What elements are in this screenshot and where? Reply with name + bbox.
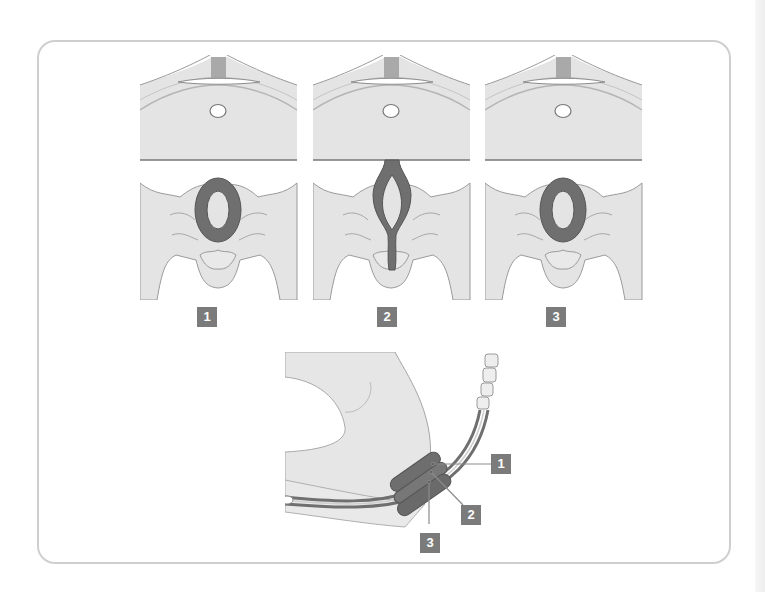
section-label-1: 1	[491, 454, 511, 474]
umbilical-opening	[383, 105, 399, 118]
linea-alba	[211, 57, 226, 79]
coccyx-vertebrae	[477, 354, 498, 409]
linea-alba	[384, 57, 399, 79]
ring-opening	[207, 191, 229, 229]
page-edge-strip	[755, 0, 765, 592]
umbilical-opening	[210, 105, 226, 118]
sagittal-section	[285, 352, 530, 552]
linea-alba	[556, 57, 571, 79]
sagittal-illustration	[285, 352, 530, 552]
panel-1-illustration	[140, 55, 300, 300]
panel-2-label-badge: 2	[377, 307, 397, 327]
panel-1-label-badge: 1	[197, 307, 217, 327]
ring-opening	[552, 191, 574, 229]
canal-opening	[285, 496, 293, 504]
panel-3	[485, 55, 645, 300]
section-label-3: 3	[420, 533, 440, 553]
umbilical-opening	[555, 105, 571, 118]
panel-3-label-badge: 3	[546, 307, 566, 327]
panel-2	[313, 55, 473, 300]
panel-1	[140, 55, 300, 300]
panel-2-illustration	[313, 55, 473, 300]
panel-3-illustration	[485, 55, 645, 300]
section-label-2: 2	[461, 505, 481, 525]
